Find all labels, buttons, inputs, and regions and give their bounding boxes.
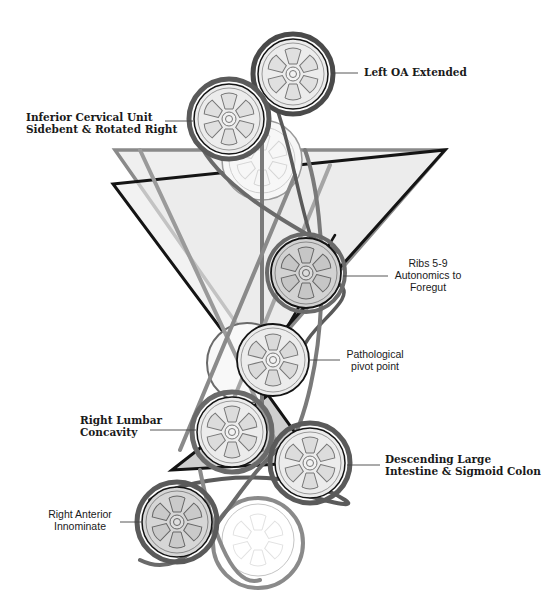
label-text: Autonomics to: [388, 269, 468, 281]
label-right-anterior-innominate: Right Anterior Innominate: [40, 508, 120, 532]
label-descending-large-intestine: Descending Large Intestine & Sigmoid Col…: [385, 453, 541, 477]
wheel-pivot: [237, 324, 309, 396]
wheel-inferior-cervical: [189, 79, 269, 159]
label-text: Sidebent & Rotated Right: [26, 123, 177, 135]
label-text: Right Anterior: [40, 508, 120, 520]
diagram-canvas: Left OA Extended Inferior Cervical Unit …: [0, 0, 555, 597]
label-text: Intestine & Sigmoid Colon: [385, 465, 541, 477]
wheel-ribs-5-9: [267, 234, 345, 312]
label-text: Concavity: [80, 426, 162, 438]
label-text: Ribs 5-9: [388, 257, 468, 269]
label-text: Innominate: [40, 520, 120, 532]
label-text: Pathological: [330, 348, 420, 360]
label-left-oa-extended: Left OA Extended: [364, 66, 467, 78]
label-text: pivot point: [330, 360, 420, 372]
label-ribs-5-9: Ribs 5-9 Autonomics to Foregut: [388, 257, 468, 293]
label-text: Right Lumbar: [80, 414, 162, 426]
wheel-right-lumbar: [192, 392, 272, 472]
wheel-right-anterior-innominate: [137, 482, 217, 562]
label-text: Descending Large: [385, 453, 541, 465]
label-inferior-cervical-unit: Inferior Cervical Unit Sidebent & Rotate…: [26, 111, 177, 135]
label-right-lumbar-concavity: Right Lumbar Concavity: [80, 414, 162, 438]
label-text: Left OA Extended: [364, 66, 467, 78]
label-pathological-pivot-point: Pathological pivot point: [330, 348, 420, 372]
label-text: Inferior Cervical Unit: [26, 111, 177, 123]
label-text: Foregut: [388, 281, 468, 293]
wheel-descending-colon: [270, 423, 350, 503]
